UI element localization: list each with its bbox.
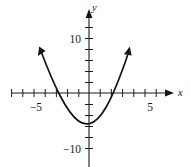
x-axis-arrow-icon (165, 90, 174, 97)
curve-right-arrow-icon (124, 47, 132, 56)
x-tick-label-5: 5 (147, 101, 153, 113)
parabola-curve (42, 53, 128, 124)
y-tick-label-10: 10 (70, 33, 82, 45)
y-axis-label: y (91, 2, 97, 13)
graph-figure: −5 5 10 −10 x y (0, 0, 190, 167)
coordinate-plane: −5 5 10 −10 x y (0, 0, 190, 167)
x-tick-label-neg5: −5 (30, 101, 42, 113)
x-axis-label: x (177, 87, 183, 98)
y-tick-label-neg10: −10 (63, 143, 81, 155)
